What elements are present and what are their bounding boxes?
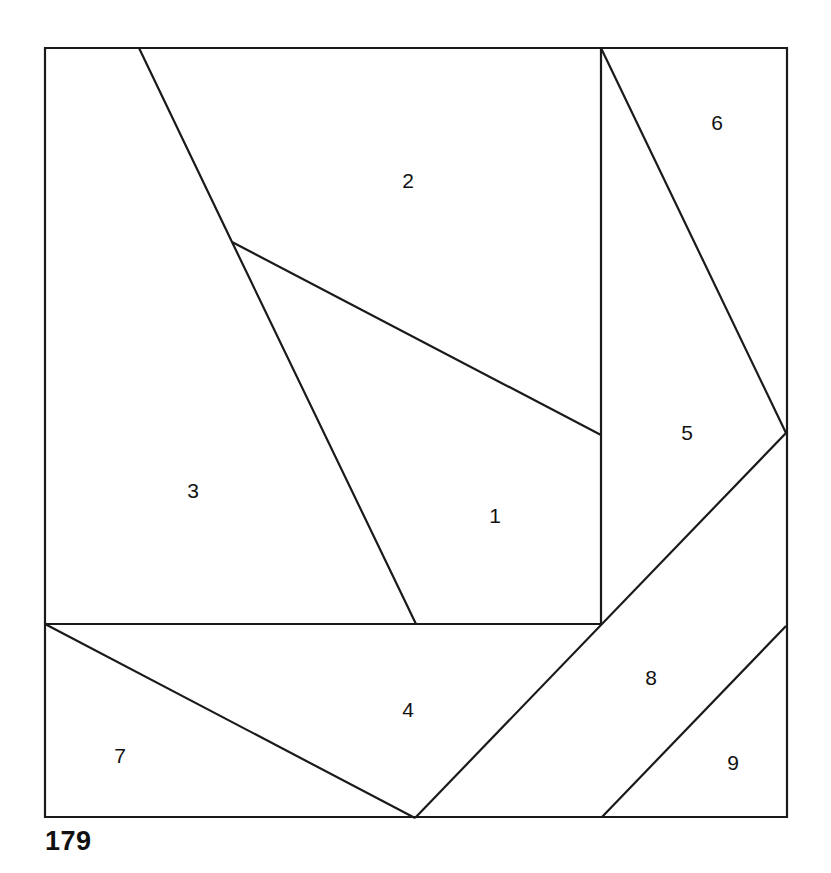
region-7-label: 7 [114,744,126,767]
region-2-label: 2 [402,169,414,192]
square-outline [45,48,787,817]
figure-caption: 179 [45,828,92,855]
figure-container: 123456789 179 [0,0,831,873]
region-9-label: 9 [727,751,739,774]
region-4-label: 4 [402,698,414,721]
region-6-label: 6 [711,111,723,134]
region-5-label: 5 [681,421,693,444]
partitioned-square-diagram: 123456789 [0,0,831,873]
region-3-label: 3 [187,479,199,502]
diagram-shapes: 123456789 [45,48,787,818]
region-1-label: 1 [489,504,501,527]
region-8-label: 8 [645,666,657,689]
